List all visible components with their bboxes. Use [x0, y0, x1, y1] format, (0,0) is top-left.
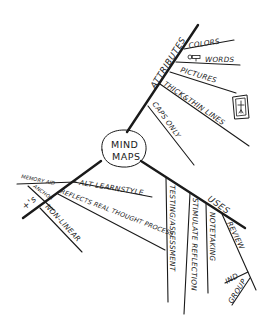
colors-label: COLORS: [188, 37, 221, 50]
alt-learnstyle-label: ALT LEARNSTYLE: [78, 178, 145, 197]
words-label: WORDS: [205, 55, 234, 64]
center-node: MIND MAPS: [102, 130, 146, 167]
notetaking-label: NOTETAKING: [208, 212, 217, 262]
caps-only-label: CAPS ONLY: [150, 100, 182, 140]
picture-frame-icon: [233, 95, 249, 119]
uses-branch: USES TESTING/ASSESSMENT STIMULATE REFLEC…: [141, 161, 256, 314]
pictures-label: PICTURES: [179, 65, 218, 85]
non-linear-label: NON-LINEAR: [44, 202, 83, 243]
center-label-line2: MAPS: [112, 151, 140, 162]
key-icon: [188, 55, 200, 61]
stimulate-reflection-label: STIMULATE REFLECTION: [189, 198, 200, 291]
mind-map-diagram: MIND MAPS ATTRIBUTES COLORS WORDS PICTUR…: [0, 0, 272, 334]
review-label: REVIEW: [225, 220, 247, 251]
center-label-line1: MIND: [111, 139, 138, 150]
pluses-branch: +'s MEMORY AID ANCHOR ALT LEARNSTYLE REF…: [17, 161, 175, 252]
